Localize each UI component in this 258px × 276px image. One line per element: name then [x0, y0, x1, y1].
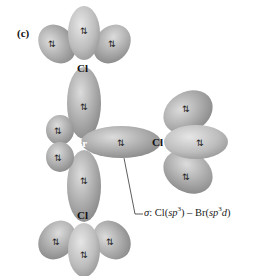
atom-br-center: Br	[75, 137, 87, 149]
cl-right-lone-pairs	[155, 82, 228, 203]
svg-text:⇅: ⇅	[54, 126, 62, 136]
br-lone-pairs	[46, 115, 74, 172]
svg-text:⇅: ⇅	[80, 176, 88, 186]
svg-text:⇅: ⇅	[54, 153, 62, 163]
svg-text:⇅: ⇅	[48, 39, 56, 49]
svg-text:⇅: ⇅	[80, 102, 88, 112]
svg-text:⇅: ⇅	[196, 138, 204, 148]
svg-text:⇅: ⇅	[106, 237, 114, 247]
svg-text:⇅: ⇅	[182, 104, 190, 114]
leader-line	[124, 158, 143, 214]
atom-cl-bottom: Cl	[77, 209, 88, 221]
svg-text:⇅: ⇅	[182, 172, 190, 182]
svg-text:⇅: ⇅	[52, 237, 60, 247]
atom-cl-top: Cl	[77, 62, 88, 74]
svg-text:⇅: ⇅	[80, 250, 88, 260]
molecular-orbital-diagram: ⇅ ⇅ ⇅ ⇅ ⇅ ⇅ ⇅ ⇅ ⇅ ⇅ ⇅ ⇅ ⇅ ⇅ Cl Br Cl Cl	[0, 0, 258, 276]
svg-text:⇅: ⇅	[117, 138, 125, 148]
sigma-bond-caption: σ: Cl(sp3) – Br(sp3d)	[144, 205, 231, 218]
cl-bottom-lone-pairs	[30, 213, 138, 276]
svg-text:⇅: ⇅	[108, 39, 116, 49]
atom-cl-right: Cl	[152, 136, 163, 148]
svg-text:⇅: ⇅	[80, 26, 88, 36]
